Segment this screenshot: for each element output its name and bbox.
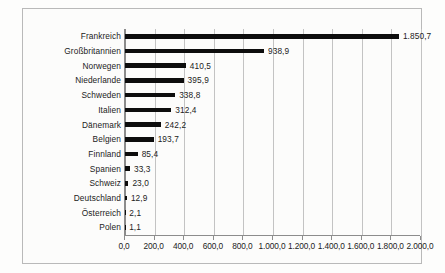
bar-container: 1.850,7 [125, 29, 431, 44]
bar-row: Dänemark242,2 [54, 117, 421, 132]
bar [125, 78, 184, 83]
chart-screenshot: Frankreich1.850,7Großbritannien938,9Norw… [0, 0, 445, 273]
bar-row: Belgien193,7 [54, 132, 421, 147]
x-axis-tick-label: 0,0 [118, 241, 129, 251]
x-axis-tick-label: 1.400,0 [318, 241, 345, 251]
bar-row: Italien312,4 [54, 103, 421, 118]
x-axis-tick-label: 400,0 [173, 241, 193, 251]
bar-row: Spanien33,3 [54, 161, 421, 176]
x-axis-tick [154, 236, 155, 240]
x-axis-tick-label: 1.800,0 [377, 241, 404, 251]
category-label: Polen [54, 222, 125, 232]
bar-value-label: 1.850,7 [399, 31, 431, 41]
category-label: Spanien [54, 164, 125, 174]
bar-row: Polen1,1 [54, 220, 421, 235]
x-axis-tick-label: 600,0 [203, 241, 223, 251]
bar-container: 410,5 [125, 58, 421, 73]
bar-value-label: 33,3 [130, 164, 151, 174]
bar-row: Finnland85,4 [54, 147, 421, 162]
bar-value-label: 395,9 [184, 75, 209, 85]
bar-container: 242,2 [125, 117, 421, 132]
bar-row: Norwegen410,5 [54, 58, 421, 73]
bar-container: 338,8 [125, 88, 421, 103]
bar-value-label: 338,8 [175, 90, 200, 100]
bar [125, 93, 175, 98]
bar-value-label: 242,2 [161, 120, 186, 130]
bar-value-label: 938,9 [264, 46, 289, 56]
category-label: Frankreich [54, 31, 125, 41]
x-axis-tick-label: 1.000,0 [259, 241, 286, 251]
x-axis-tick-label: 1.600,0 [347, 241, 374, 251]
bar-value-label: 312,4 [171, 105, 196, 115]
category-label: Norwegen [54, 61, 125, 71]
bar-container: 85,4 [125, 147, 421, 162]
bar [125, 152, 138, 157]
x-axis-tick [124, 236, 125, 240]
bar-container: 1,1 [125, 220, 421, 235]
plot-area: Frankreich1.850,7Großbritannien938,9Norw… [124, 29, 420, 235]
bar-container: 2,1 [125, 205, 421, 220]
bar [125, 108, 171, 113]
category-label: Italien [54, 105, 125, 115]
x-axis-tick [302, 236, 303, 240]
bar-container: 312,4 [125, 103, 421, 118]
bar-container: 193,7 [125, 132, 421, 147]
bar-chart: Frankreich1.850,7Großbritannien938,9Norw… [53, 25, 438, 265]
x-axis-tick-label: 200,0 [143, 241, 163, 251]
x-axis-tick-label: 2.000,0 [407, 241, 434, 251]
x-axis-tick [331, 236, 332, 240]
bar-rows: Frankreich1.850,7Großbritannien938,9Norw… [54, 29, 421, 235]
bar-row: Österreich2,1 [54, 205, 421, 220]
category-label: Großbritannien [54, 46, 125, 56]
bar-value-label: 410,5 [186, 61, 211, 71]
category-label: Niederlande [54, 75, 125, 85]
category-label: Finnland [54, 149, 125, 159]
bar-container: 938,9 [125, 44, 421, 59]
bar-row: Schweden338,8 [54, 88, 421, 103]
bar-row: Niederlande395,9 [54, 73, 421, 88]
x-axis-tick [420, 236, 421, 240]
category-label: Österreich [54, 208, 125, 218]
bar-value-label: 1,1 [125, 222, 141, 232]
bar-row: Deutschland12,9 [54, 191, 421, 206]
category-label: Schweiz [54, 178, 125, 188]
x-axis-tick-labels: 0,0200,0400,0600,0800,01.000,01.200,01.4… [124, 241, 420, 255]
chart-outer-frame: Frankreich1.850,7Großbritannien938,9Norw… [22, 8, 422, 264]
bar [125, 63, 186, 68]
x-axis-tick [213, 236, 214, 240]
bar [125, 49, 264, 54]
bar-value-label: 85,4 [138, 149, 159, 159]
x-axis-tick [242, 236, 243, 240]
x-axis-tick-label: 1.200,0 [288, 241, 315, 251]
bar-container: 33,3 [125, 161, 421, 176]
bar-row: Großbritannien938,9 [54, 44, 421, 59]
x-axis-tick [390, 236, 391, 240]
bar-row: Schweiz23,0 [54, 176, 421, 191]
bar-value-label: 2,1 [125, 208, 141, 218]
bar [125, 122, 161, 127]
bar-container: 395,9 [125, 73, 421, 88]
category-label: Deutschland [54, 193, 125, 203]
x-axis-tick-label: 800,0 [232, 241, 252, 251]
category-label: Schweden [54, 90, 125, 100]
category-label: Belgien [54, 134, 125, 144]
bar-container: 23,0 [125, 176, 421, 191]
x-axis-tick [361, 236, 362, 240]
bar-value-label: 193,7 [154, 134, 179, 144]
bar-row: Frankreich1.850,7 [54, 29, 421, 44]
x-axis-tick [183, 236, 184, 240]
bar [125, 34, 399, 39]
gridline [421, 29, 422, 235]
x-axis-tick [272, 236, 273, 240]
bar-value-label: 23,0 [128, 178, 149, 188]
bar-value-label: 12,9 [127, 193, 148, 203]
category-label: Dänemark [54, 120, 125, 130]
bar [125, 137, 154, 142]
bar-container: 12,9 [125, 191, 421, 206]
